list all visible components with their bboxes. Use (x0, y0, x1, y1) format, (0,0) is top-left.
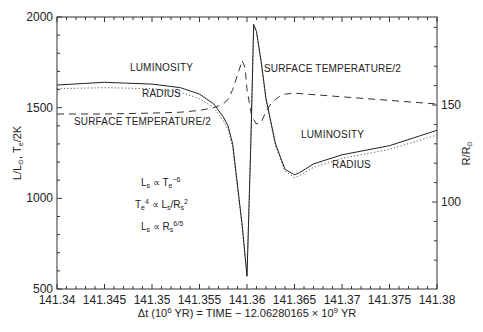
plot-frame (57, 17, 437, 289)
x-tick-label: 141.36 (229, 293, 266, 307)
y-tick-label-right: 100 (441, 195, 461, 209)
y-tick-labels-right: 150100 (441, 98, 461, 209)
curve-label: SURFACE TEMPERATURE/2 (74, 116, 211, 127)
equation-2: Te4 ∝ Ls/Rs2 (135, 198, 188, 211)
axis-ticks (57, 17, 437, 289)
y-tick-label: 500 (33, 282, 53, 296)
y-tick-label: 1000 (26, 191, 53, 205)
x-tick-labels: 141.34141.345141.35141.355141.36141.3651… (39, 293, 456, 307)
x-tick-label: 141.375 (368, 293, 412, 307)
equation-3: Ls ∝ Rs6/5 (141, 220, 183, 233)
chart-canvas: 141.34141.345141.35141.355141.36141.3651… (0, 0, 483, 332)
x-tick-label: 141.37 (324, 293, 361, 307)
curve-label: RADIUS (142, 88, 181, 99)
plot-lines (57, 24, 437, 276)
x-tick-label: 141.38 (419, 293, 456, 307)
x-axis-title: Δt (106 YR) = TIME − 12.06280165 × 109 Y… (138, 306, 356, 319)
y-axis-title-left: L/L⊙, Te/2K (11, 125, 24, 180)
curve-annotations: LUMINOSITYRADIUSSURFACE TEMPERATURE/2SUR… (74, 62, 401, 169)
curve-label: LUMINOSITY (301, 129, 364, 140)
x-tick-label: 141.355 (178, 293, 222, 307)
x-tick-label: 141.35 (134, 293, 171, 307)
x-tick-label: 141.365 (273, 293, 317, 307)
curve-label: RADIUS (332, 159, 371, 170)
y-tick-labels-left: 200015001000500 (26, 10, 53, 296)
series-luminosity-line (57, 24, 437, 276)
y-tick-label-right: 150 (441, 98, 461, 112)
equation-1: Ls ∝ Te−6 (141, 176, 181, 189)
y-tick-label: 2000 (26, 10, 53, 24)
x-tick-label: 141.345 (83, 293, 127, 307)
curve-label: LUMINOSITY (130, 62, 193, 73)
curve-label: SURFACE TEMPERATURE/2 (264, 63, 401, 74)
y-tick-label: 1500 (26, 101, 53, 115)
y-axis-title-right: R/R⊙ (460, 141, 473, 166)
